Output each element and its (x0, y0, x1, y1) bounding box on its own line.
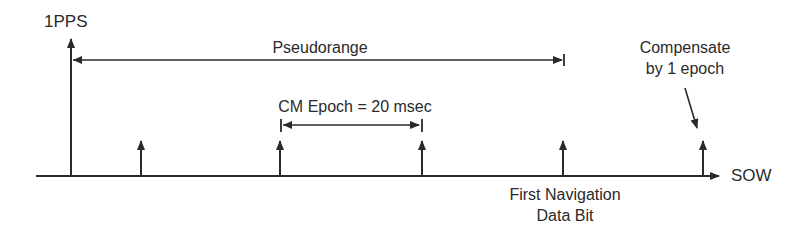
compensate-label-line1: Compensate (620, 38, 750, 57)
cm-epoch-label: CM Epoch = 20 msec (240, 97, 470, 116)
first-nav-label-line2: Data Bit (490, 206, 640, 225)
pseudorange-label: Pseudorange (255, 38, 385, 57)
timing-diagram (0, 0, 810, 239)
sow-axis-label: SOW (731, 166, 772, 185)
compensate-leader-arrow (685, 88, 697, 128)
cm-epoch-arrow (281, 119, 422, 132)
pps-label: 1PPS (44, 12, 87, 31)
first-nav-label-line1: First Navigation (490, 185, 640, 204)
epoch-markers (141, 141, 703, 176)
compensate-label-line2: by 1 epoch (620, 59, 750, 78)
